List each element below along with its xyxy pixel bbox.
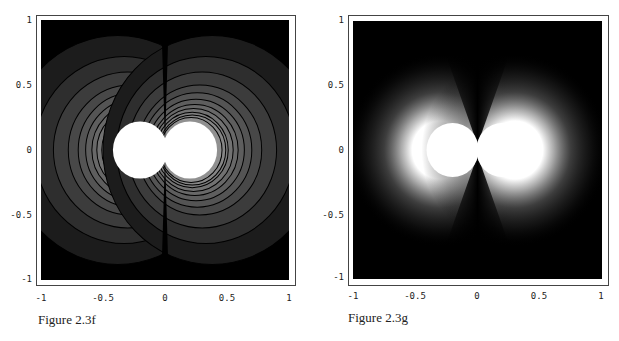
y-tick-label: 1 bbox=[4, 15, 32, 25]
x-tick-label: 1 bbox=[274, 293, 304, 303]
y-tick-label: -0.5 bbox=[4, 210, 32, 220]
density-plot-area bbox=[353, 21, 602, 279]
x-tick-label: 1 bbox=[586, 291, 616, 301]
x-tick-label: 0.5 bbox=[212, 293, 242, 303]
x-tick-label: 0.5 bbox=[524, 291, 554, 301]
x-tick-label: 0 bbox=[150, 293, 180, 303]
y-tick-label: -0.5 bbox=[316, 210, 344, 220]
y-tick-label: -1 bbox=[316, 272, 344, 282]
y-tick-label: 0 bbox=[316, 145, 344, 155]
x-tick-label: 0 bbox=[462, 291, 492, 301]
x-tick-label: -1 bbox=[26, 293, 56, 303]
contour-plot-svg bbox=[41, 20, 289, 280]
figure-2-3g-panel: 1 0.5 0 -0.5 -1 -1 -0.5 0 0.5 1 Figure 2… bbox=[310, 0, 619, 341]
y-tick-label: 1 bbox=[316, 15, 344, 25]
y-tick-label: 0.5 bbox=[316, 80, 344, 90]
y-tick-label: -1 bbox=[4, 274, 32, 284]
y-tick-label: 0 bbox=[4, 145, 32, 155]
x-tick-label: -0.5 bbox=[400, 291, 430, 301]
y-tick-label: 0.5 bbox=[4, 80, 32, 90]
contour-plot-area bbox=[41, 20, 289, 280]
figure-2-3f-panel: 1 0.5 0 -0.5 -1 -1 -0.5 0 0.5 1 Figure 2… bbox=[0, 0, 310, 341]
density-plot-svg bbox=[353, 21, 602, 279]
x-tick-label: -0.5 bbox=[88, 293, 118, 303]
figure-caption: Figure 2.3g bbox=[348, 310, 408, 326]
x-tick-label: -1 bbox=[338, 291, 368, 301]
figure-caption: Figure 2.3f bbox=[38, 312, 96, 328]
